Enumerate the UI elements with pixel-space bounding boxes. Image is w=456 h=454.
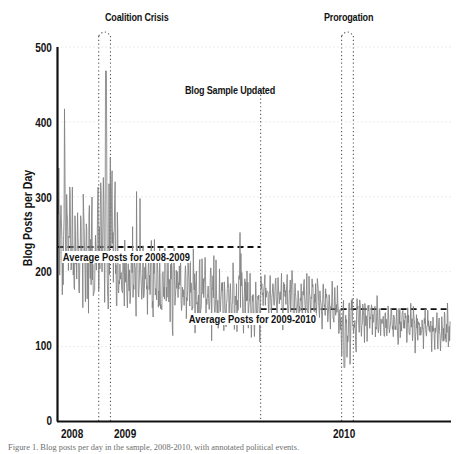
chart-plot-area	[0, 0, 456, 454]
y-tick-label-100: 100	[35, 339, 52, 353]
y-axis-title: Blog Posts per Day	[21, 151, 35, 285]
y-tick-label-400: 400	[35, 116, 52, 130]
axes	[57, 47, 451, 422]
x-tick-label-2008: 2008	[61, 427, 83, 441]
figure-caption: Figure 1. Blog posts per day in the samp…	[8, 443, 452, 453]
annotation-label-blog-sample-updated: Blog Sample Updated	[185, 84, 275, 96]
y-tick-label-0: 0	[46, 414, 52, 428]
y-tick-label-500: 500	[35, 41, 52, 55]
x-tick-label-2009: 2009	[114, 427, 136, 441]
chart-figure: Blog Posts per Day 500 400 300 200 100 0…	[0, 0, 456, 454]
reference-label-average-2009-2010: Average Posts for 2009-2010	[188, 313, 317, 325]
y-tick-label-300: 300	[35, 191, 52, 205]
reference-label-average-2008-2009: Average Posts for 2008-2009	[62, 251, 191, 263]
x-tick-label-2010: 2010	[333, 427, 355, 441]
y-tick-label-200: 200	[35, 265, 52, 279]
annotation-label-prorogation: Prorogation	[324, 11, 373, 23]
annotation-label-coalition-crisis: Coalition Crisis	[105, 11, 168, 23]
